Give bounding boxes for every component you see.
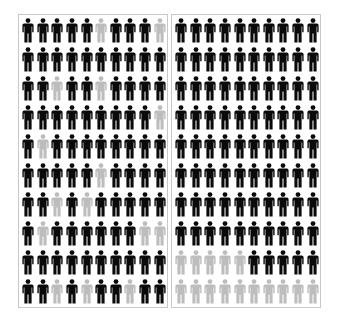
icon-cell [291,105,306,134]
person-icon-filled [292,18,304,43]
person-icon-filled [22,221,34,246]
person-icon-filled [175,105,187,130]
person-icon-filled [277,134,289,159]
person-icon-filled [37,163,49,188]
person-icon-filled [190,192,202,217]
person-icon-filled [37,279,49,304]
icon-cell [152,18,167,47]
icon-cell [152,105,167,134]
icon-cell [50,221,65,250]
icon-cell [79,47,94,76]
person-icon-filled [51,163,63,188]
icon-cell [36,250,51,279]
person-icon-filled [66,250,78,275]
icon-cell [174,76,189,105]
icon-cell [247,105,262,134]
icon-cell [174,105,189,134]
person-icon-filled [110,47,122,72]
icon-cell [262,163,277,192]
icon-cell [152,221,167,250]
person-icon-filled [292,221,304,246]
person-icon-empty [219,250,231,275]
person-icon-filled [110,192,122,217]
person-icon-filled [175,163,187,188]
icon-cell [21,221,36,250]
person-icon-filled [263,76,275,101]
icon-cell [123,250,138,279]
icon-cell [291,47,306,76]
icon-cell [203,76,218,105]
icon-cell [247,134,262,163]
person-icon-filled [234,192,246,217]
icon-cell [65,192,80,221]
icon-cell [21,279,36,308]
person-icon-empty [175,279,187,304]
person-icon-filled [154,250,166,275]
icon-cell [36,76,51,105]
person-icon-filled [154,192,166,217]
person-icon-filled [307,221,319,246]
person-icon-filled [248,192,260,217]
person-icon-filled [219,221,231,246]
icon-cell [276,221,291,250]
icon-cell [36,279,51,308]
person-icon-filled [95,250,107,275]
icon-cell [21,163,36,192]
person-icon-filled [219,192,231,217]
icon-cell [232,250,247,279]
person-icon-empty [37,134,49,159]
icon-cell [36,163,51,192]
person-icon-filled [248,105,260,130]
icon-cell [138,221,153,250]
person-icon-filled [263,134,275,159]
person-icon-filled [81,18,93,43]
icon-cell [152,76,167,105]
person-icon-filled [219,134,231,159]
person-icon-filled [263,18,275,43]
person-icon-filled [139,134,151,159]
person-icon-filled [95,47,107,72]
person-icon-filled [37,76,49,101]
icon-cell [189,18,204,47]
icon-cell [218,47,233,76]
person-icon-filled [292,134,304,159]
icon-cell [36,105,51,134]
person-icon-filled [263,221,275,246]
icon-cell [291,192,306,221]
person-icon-filled [139,76,151,101]
person-icon-filled [66,47,78,72]
icon-cell [189,192,204,221]
icon-cell [138,18,153,47]
person-icon-filled [139,163,151,188]
icon-cell [247,279,262,308]
person-icon-filled [190,221,202,246]
person-icon-filled [307,18,319,43]
icon-cell [276,250,291,279]
icon-cell [262,192,277,221]
icon-cell [94,134,109,163]
icon-cell [123,279,138,308]
icon-cell [65,18,80,47]
person-icon-filled [66,76,78,101]
person-icon-filled [248,47,260,72]
icon-cell [174,250,189,279]
icon-cell [65,134,80,163]
icon-cell [203,134,218,163]
icon-cell [138,47,153,76]
icon-cell [305,18,320,47]
icon-cell [138,76,153,105]
icon-cell [152,163,167,192]
person-icon-filled [292,163,304,188]
person-icon-filled [204,105,216,130]
person-icon-empty [248,279,260,304]
icon-cell [189,76,204,105]
icon-cell [203,18,218,47]
icon-cell [138,250,153,279]
person-icon-filled [139,192,151,217]
icon-cell [232,18,247,47]
person-icon-empty [154,221,166,246]
person-icon-filled [124,105,136,130]
person-icon-filled [139,279,151,304]
icon-cell [152,192,167,221]
person-icon-empty [204,250,216,275]
